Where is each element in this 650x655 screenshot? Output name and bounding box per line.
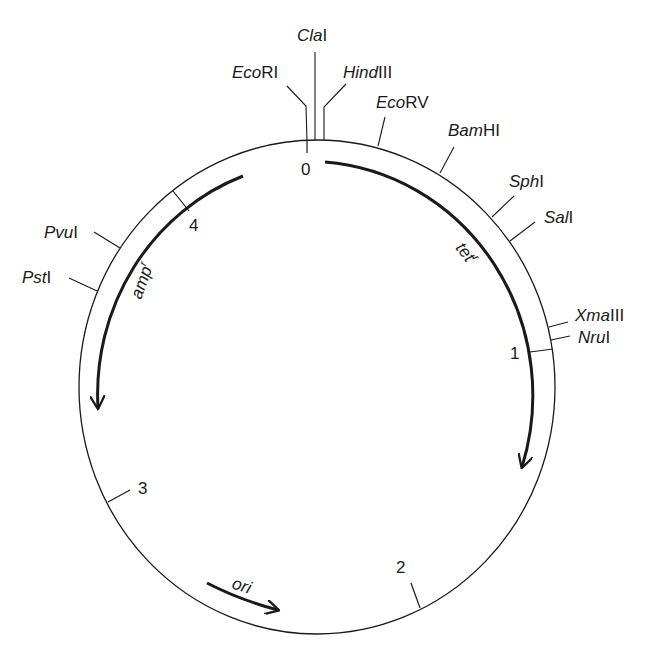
tick-label-2: 2 xyxy=(396,558,405,577)
gene-labels: tetr ampr ori xyxy=(125,238,483,598)
sphi-leader xyxy=(492,196,514,217)
gene-arrows xyxy=(98,162,533,610)
site-label-ecori: EcoRI xyxy=(232,63,278,82)
site-label-pvui: PvuI xyxy=(44,223,78,242)
site-label-nrui: NruI xyxy=(578,328,610,347)
nrui-leader xyxy=(551,336,570,340)
site-label-ecorv: EcoRV xyxy=(376,93,429,112)
hindiii-leader xyxy=(324,84,346,140)
site-label-hindiii: HindIII xyxy=(343,63,392,82)
tick-1 xyxy=(530,349,553,352)
psti-leader xyxy=(69,278,97,291)
tick-label-4: 4 xyxy=(189,216,198,235)
site-label-sali: SalI xyxy=(544,208,573,227)
site-labels: EcoRI ClaI HindIII EcoRV BamHI SphI SalI… xyxy=(22,26,624,347)
site-label-bamhi: BamHI xyxy=(448,121,500,140)
pvui-leader xyxy=(94,232,120,248)
tick-4 xyxy=(173,191,189,211)
site-label-xmaiii: XmaIII xyxy=(574,306,624,325)
gene-label-amp: ampr xyxy=(125,258,158,301)
site-label-sphi: SphI xyxy=(509,172,544,191)
ecorv-leader xyxy=(378,117,385,146)
plasmid-backbone xyxy=(79,140,555,634)
tick-3 xyxy=(108,490,130,502)
tick-label-0: 0 xyxy=(301,160,310,179)
tick-label-3: 3 xyxy=(138,479,147,498)
tick-label-1: 1 xyxy=(510,344,519,363)
site-label-clai: ClaI xyxy=(297,26,327,45)
xmaiii-leader xyxy=(549,322,568,327)
bamhi-leader xyxy=(440,147,454,173)
scale-labels: 0 1 2 3 4 xyxy=(138,160,519,577)
tick-2 xyxy=(411,583,420,608)
amp-resistance-arrow xyxy=(98,176,243,408)
ecori-leader xyxy=(287,86,307,141)
site-label-psti: PstI xyxy=(22,268,51,287)
scale-ticks xyxy=(108,140,553,608)
plasmid-map: 0 1 2 3 4 EcoRI ClaI HindIII EcoRV BamHI… xyxy=(0,0,650,655)
sali-leader xyxy=(510,222,535,241)
